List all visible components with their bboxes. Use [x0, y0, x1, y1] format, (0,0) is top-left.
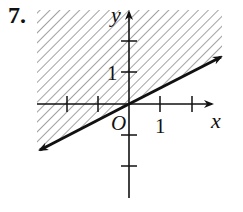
- origin-label: O: [111, 111, 126, 135]
- inequality-graph: y x O 1 1: [0, 0, 243, 212]
- y-tick-label-1: 1: [107, 61, 118, 85]
- y-axis-label: y: [109, 2, 121, 27]
- x-tick-label-1: 1: [155, 114, 166, 138]
- x-axis-label: x: [210, 108, 221, 133]
